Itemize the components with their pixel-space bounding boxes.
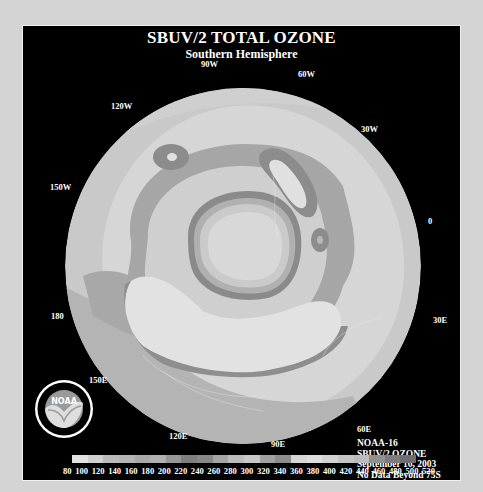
colorbar-ticks: 8010012014016018020022024026028030032034… xyxy=(63,466,435,476)
colorbar-tick: 160 xyxy=(125,466,138,476)
colorbar-tick: 360 xyxy=(290,466,303,476)
colorbar-segment xyxy=(72,455,88,463)
longitude-label: 120E xyxy=(169,431,187,441)
longitude-label: 180 xyxy=(51,311,64,321)
colorbar-segment xyxy=(260,455,276,463)
colorbar-segment xyxy=(322,455,338,463)
colorbar-tick: 220 xyxy=(174,466,187,476)
colorbar-tick: 200 xyxy=(158,466,171,476)
colorbar-tick: 120 xyxy=(92,466,105,476)
colorbar-segment xyxy=(181,455,197,463)
colorbar xyxy=(72,455,416,463)
colorbar-tick: 260 xyxy=(207,466,220,476)
colorbar-segment xyxy=(88,455,104,463)
colorbar-tick: 340 xyxy=(273,466,286,476)
longitude-label: 120W xyxy=(111,101,132,111)
colorbar-segment xyxy=(103,455,119,463)
colorbar-tick: 280 xyxy=(224,466,237,476)
colorbar-tick: 100 xyxy=(75,466,88,476)
colorbar-tick: 480 xyxy=(389,466,402,476)
colorbar-tick: 520 xyxy=(422,466,435,476)
colorbar-segment xyxy=(369,455,385,463)
longitude-label: 30E xyxy=(433,315,447,325)
longitude-label: 60W xyxy=(298,69,315,79)
colorbar-tick: 180 xyxy=(141,466,154,476)
colorbar-segment xyxy=(400,455,416,463)
colorbar-tick: 400 xyxy=(323,466,336,476)
longitude-label: 90W xyxy=(201,59,218,69)
colorbar-segment xyxy=(338,455,354,463)
colorbar-tick: 240 xyxy=(191,466,204,476)
map-panel: SBUV/2 TOTAL OZONE Southern Hemisphere xyxy=(22,25,461,481)
colorbar-tick: 380 xyxy=(306,466,319,476)
longitude-label: 30W xyxy=(361,124,378,134)
colorbar-segment xyxy=(244,455,260,463)
colorbar-segment xyxy=(385,455,401,463)
colorbar-segment xyxy=(135,455,151,463)
noaa-logo-text: NOAA xyxy=(51,397,77,406)
longitude-label: 60E xyxy=(357,424,371,434)
longitude-label: 90E xyxy=(271,439,285,449)
colorbar-segment xyxy=(197,455,213,463)
colorbar-tick: 320 xyxy=(257,466,270,476)
colorbar-tick: 440 xyxy=(356,466,369,476)
colorbar-tick: 140 xyxy=(108,466,121,476)
colorbar-segment xyxy=(291,455,307,463)
colorbar-segment xyxy=(307,455,323,463)
noaa-logo: NOAA xyxy=(34,379,94,443)
longitude-label: 150W xyxy=(50,182,71,192)
colorbar-segment xyxy=(213,455,229,463)
colorbar-tick: 300 xyxy=(240,466,253,476)
colorbar-segment xyxy=(150,455,166,463)
colorbar-tick: 80 xyxy=(63,466,72,476)
colorbar-segment xyxy=(228,455,244,463)
colorbar-segment xyxy=(275,455,291,463)
colorbar-segment xyxy=(166,455,182,463)
satellite-label: NOAA-16 xyxy=(357,438,441,449)
longitude-label: 0 xyxy=(428,216,432,226)
colorbar-segment xyxy=(119,455,135,463)
colorbar-segment xyxy=(354,455,370,463)
colorbar-tick: 460 xyxy=(373,466,386,476)
colorbar-tick: 420 xyxy=(339,466,352,476)
colorbar-tick: 500 xyxy=(406,466,419,476)
